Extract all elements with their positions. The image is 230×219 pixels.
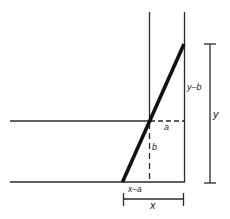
label-a: a	[164, 122, 169, 132]
thick-diagonal-line	[123, 44, 185, 182]
label-y-minus-b: y–b	[186, 82, 202, 92]
label-y: y	[212, 108, 220, 120]
diagram-canvas: a b y–b x–a x y	[0, 0, 230, 219]
geometry-diagram: a b y–b x–a x y	[0, 0, 230, 219]
label-x: x	[149, 199, 156, 211]
label-b: b	[152, 142, 157, 152]
label-x-minus-a: x–a	[127, 184, 142, 194]
